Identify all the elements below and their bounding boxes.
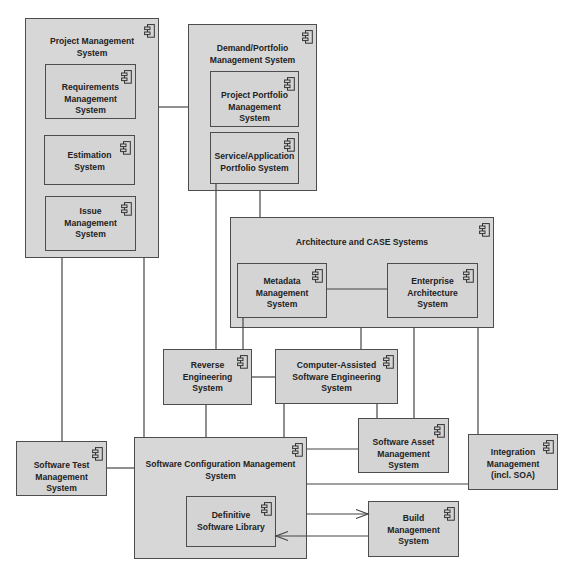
component-icon: [292, 443, 303, 457]
software-configuration-management-system-label: Software Configuration Management System: [135, 459, 306, 482]
metadata-management-system: Metadata Management System: [237, 263, 327, 318]
component-icon: [284, 138, 295, 152]
demand-portfolio-management-system-label: Demand/Portfolio Management System: [189, 43, 316, 66]
component-icon: [479, 223, 490, 237]
project-portfolio-management-system-label: Project Portfolio Management System: [211, 90, 298, 125]
arrowhead-to-build: [356, 510, 368, 519]
component-icon: [92, 447, 103, 461]
issue-management-system-label: Issue Management System: [46, 206, 135, 241]
issue-management-system: Issue Management System: [45, 196, 136, 251]
software-asset-management-system: Software Asset Management System: [358, 418, 449, 473]
estimation-system: Estimation System: [44, 135, 135, 185]
build-management-system-label: Build Management System: [369, 513, 458, 548]
definitive-software-library-label: Definitive Software Library: [187, 510, 275, 533]
requirements-management-system-label: Requirements Management System: [46, 82, 135, 117]
build-management-system: Build Management System: [368, 501, 459, 557]
service-application-portfolio-system: Service/Application Portfolio System: [210, 132, 299, 184]
enterprise-architecture-system-label: Enterprise Architecture System: [388, 276, 477, 311]
computer-assisted-software-engineering-system: Computer-Assisted Software Engineering S…: [275, 349, 398, 404]
definitive-software-library: Definitive Software Library: [186, 496, 276, 547]
architecture-case-systems-label: Architecture and CASE Systems: [231, 237, 493, 249]
estimation-system-label: Estimation System: [45, 150, 134, 173]
integration-management-label: Integration Management (incl. SOA): [469, 447, 557, 482]
requirements-management-system: Requirements Management System: [45, 64, 136, 119]
software-test-management-system: Software Test Management System: [16, 441, 107, 496]
project-management-system-label: Project Management System: [26, 36, 158, 59]
component-icon: [302, 30, 313, 44]
service-application-portfolio-system-label: Service/Application Portfolio System: [211, 151, 298, 174]
integration-management: Integration Management (incl. SOA): [468, 434, 558, 490]
enterprise-architecture-system: Enterprise Architecture System: [387, 263, 478, 318]
project-portfolio-management-system: Project Portfolio Management System: [210, 71, 299, 127]
component-icon: [434, 424, 445, 438]
component-icon: [284, 77, 295, 91]
software-asset-management-system-label: Software Asset Management System: [359, 437, 448, 472]
reverse-engineering-system-label: Reverse Engineering System: [164, 360, 251, 395]
component-diagram: Project Management System Requirements M…: [0, 0, 579, 575]
metadata-management-system-label: Metadata Management System: [238, 276, 326, 311]
software-test-management-system-label: Software Test Management System: [17, 460, 106, 495]
reverse-engineering-system: Reverse Engineering System: [163, 349, 252, 405]
case-system-label: Computer-Assisted Software Engineering S…: [276, 360, 397, 395]
